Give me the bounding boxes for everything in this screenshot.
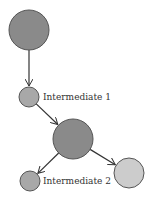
node-circle — [114, 158, 144, 188]
node-label-intermediate-2: Intermediate 2 — [43, 176, 111, 186]
node-circle — [9, 10, 49, 50]
node-label-intermediate-1: Intermediate 1 — [43, 92, 111, 102]
node-circle — [53, 119, 93, 159]
edge-arrow — [36, 104, 58, 125]
graph-diagram: Intermediate 1 Intermediate 2 — [0, 0, 153, 199]
node-circle — [20, 171, 40, 191]
edge-arrow — [38, 153, 59, 173]
node-circle — [19, 87, 39, 107]
edge-arrow — [90, 149, 115, 164]
